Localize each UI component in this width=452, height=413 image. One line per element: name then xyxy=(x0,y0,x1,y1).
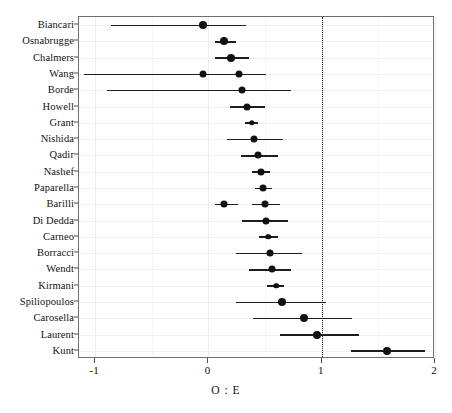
point-estimate-marker xyxy=(313,331,321,339)
point-estimate-marker xyxy=(259,185,266,192)
table-row xyxy=(79,351,433,352)
table-row xyxy=(79,155,433,156)
table-row xyxy=(79,172,433,173)
x-tick-mark xyxy=(321,358,322,363)
point-estimate-marker xyxy=(236,71,243,78)
table-row xyxy=(79,139,433,140)
point-estimate-marker xyxy=(274,283,280,289)
table-row xyxy=(79,107,433,108)
gridline-x-2 xyxy=(435,17,436,357)
confidence-interval-bar xyxy=(107,90,292,92)
plot-panel xyxy=(78,16,434,358)
point-estimate-marker xyxy=(266,250,273,257)
table-row xyxy=(79,90,433,91)
x-tick-label-1: 1 xyxy=(318,364,324,376)
point-estimate-marker xyxy=(227,54,235,62)
point-estimate-marker xyxy=(262,201,269,208)
table-row xyxy=(79,41,433,42)
y-axis-ticks xyxy=(0,16,78,358)
point-estimate-marker xyxy=(278,298,286,306)
table-row xyxy=(79,302,433,303)
point-estimate-marker xyxy=(266,234,272,240)
table-row xyxy=(79,237,433,238)
point-estimate-marker xyxy=(220,37,228,45)
point-estimate-marker xyxy=(250,136,257,143)
table-row xyxy=(79,253,433,254)
table-row xyxy=(79,335,433,336)
point-estimate-marker xyxy=(257,168,264,175)
table-row xyxy=(79,123,433,124)
point-estimate-marker xyxy=(300,314,308,322)
x-tick-label-2: 2 xyxy=(431,364,437,376)
table-row xyxy=(79,221,433,222)
gridline-minor-x-1.5 xyxy=(378,17,379,357)
point-estimate-marker xyxy=(221,201,228,208)
table-row xyxy=(79,58,433,59)
point-estimate-marker xyxy=(239,87,246,94)
table-row xyxy=(79,74,433,75)
table-row xyxy=(79,25,433,26)
x-tick-mark xyxy=(207,358,208,363)
point-estimate-marker xyxy=(268,266,275,273)
reference-line-at-1 xyxy=(322,17,323,357)
gridline-minor-x--0.5 xyxy=(152,17,153,357)
table-row xyxy=(79,204,433,205)
gridline-x--1 xyxy=(95,17,96,357)
x-tick-mark xyxy=(434,358,435,363)
point-estimate-marker xyxy=(199,21,207,29)
table-row xyxy=(79,286,433,287)
table-row xyxy=(79,269,433,270)
point-estimate-marker xyxy=(263,217,270,224)
x-tick-label--1: -1 xyxy=(90,364,99,376)
forest-plot-figure: BiancariOsnabruggeChalmersWangBordeHowel… xyxy=(0,0,452,413)
table-row xyxy=(79,188,433,189)
gridline-x-0 xyxy=(208,17,209,357)
point-estimate-marker xyxy=(199,71,206,78)
point-estimate-marker xyxy=(383,347,391,355)
point-estimate-marker xyxy=(249,120,255,126)
x-axis-title: O : E xyxy=(0,384,452,396)
x-tick-label-0: 0 xyxy=(205,364,211,376)
point-estimate-marker xyxy=(255,152,262,159)
x-tick-mark xyxy=(94,358,95,363)
point-estimate-marker xyxy=(243,103,250,110)
table-row xyxy=(79,318,433,319)
confidence-interval-bar xyxy=(111,25,246,27)
